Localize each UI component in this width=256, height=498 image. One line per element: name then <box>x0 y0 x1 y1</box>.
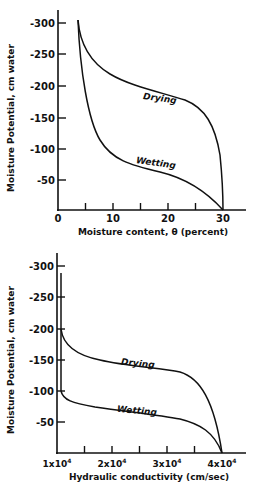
bottom-y-ticks: -300 -250 -200 -150 -100 -50 <box>29 261 65 428</box>
bottom-y-tick-label: -200 <box>29 324 54 335</box>
top-wetting-label: Wetting <box>135 155 177 171</box>
top-y-ticks: -300 -250 -200 -150 -100 -50 <box>30 18 66 186</box>
top-wetting-curve <box>78 20 223 210</box>
bottom-y-tick-label: -50 <box>36 417 54 428</box>
bottom-x-tick-label: 4x104 <box>208 457 237 469</box>
bottom-x-tick-label: 3x104 <box>153 457 182 469</box>
top-drying-curve <box>78 20 223 210</box>
bottom-y-axis-label: Moisture Potential, cm water <box>6 286 16 434</box>
bottom-y-tick-label: -150 <box>29 355 54 366</box>
bottom-y-tick-label: -100 <box>29 386 54 397</box>
bottom-chart: Moisture Potential, cm water -300 -250 -… <box>6 253 246 482</box>
top-drying-label: Drying <box>142 91 177 106</box>
bottom-x-ticks: 1x104 2x104 3x104 4x104 <box>43 446 237 469</box>
bottom-wetting-curve <box>61 391 222 453</box>
top-y-tick-label: -300 <box>30 18 55 29</box>
top-x-tick-label: 0 <box>55 213 62 224</box>
top-x-tick-label: 20 <box>161 213 175 224</box>
top-y-tick-label: -50 <box>37 175 55 186</box>
figure: Moisture Potential, cm water -300 -250 -… <box>0 0 256 498</box>
top-y-axis-label: Moisture Potential, cm water <box>6 44 16 192</box>
bottom-x-axis-label: Hydraulic conductivity (cm/sec) <box>69 472 229 482</box>
bottom-x-tick-label: 2x104 <box>98 457 127 469</box>
bottom-drying-label: Drying <box>121 357 156 371</box>
top-x-tick-label: 10 <box>106 213 120 224</box>
top-y-tick-label: -100 <box>30 144 55 155</box>
top-x-ticks: 0 10 20 30 <box>55 203 230 224</box>
top-y-tick-label: -200 <box>30 81 55 92</box>
top-x-axis-label: Moisture content, θ (percent) <box>78 227 228 237</box>
top-y-tick-label: -150 <box>30 113 55 124</box>
bottom-y-tick-label: -300 <box>29 261 54 272</box>
top-chart: Moisture Potential, cm water -300 -250 -… <box>6 10 246 237</box>
bottom-y-tick-label: -250 <box>29 292 54 303</box>
top-x-tick-label: 30 <box>216 213 230 224</box>
bottom-x-tick-label: 1x104 <box>43 457 72 469</box>
bottom-wetting-label: Wetting <box>117 404 158 417</box>
top-y-tick-label: -250 <box>30 49 55 60</box>
bottom-drying-curve <box>61 329 222 453</box>
